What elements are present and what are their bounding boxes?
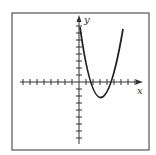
x-axis: x: [20, 79, 143, 96]
y-axis: y: [76, 14, 90, 144]
x-axis-label: x: [137, 85, 143, 96]
y-axis-arrow-icon: [77, 15, 82, 22]
parabola-curve: [80, 27, 123, 98]
parabola-graph: x y: [0, 0, 156, 155]
x-axis-arrow-icon: [136, 80, 143, 85]
y-axis-label: y: [83, 14, 90, 25]
